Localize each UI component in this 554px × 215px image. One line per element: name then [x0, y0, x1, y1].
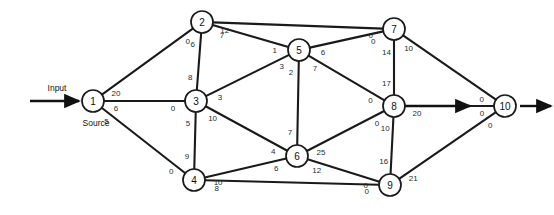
edge-label-1-3-far: 0 [171, 104, 176, 113]
edge-label-7-10-far: 0 [480, 95, 485, 104]
edge-label-2-3-near: 6 [191, 40, 196, 49]
edge-label-8-10-near: 20 [413, 109, 422, 118]
edge-label-2-5-far: 1 [273, 46, 278, 55]
edge-label-8-9-far: 16 [379, 157, 388, 166]
input-label: Input [48, 83, 68, 93]
node-label-5: 5 [296, 45, 302, 56]
edge-label-2-3-far: 8 [188, 73, 193, 82]
node-4: 4 [183, 169, 205, 191]
source-label: Source [83, 118, 110, 128]
edge-label-3-4-near: 5 [186, 119, 191, 128]
edge-5-6 [297, 61, 299, 145]
edge-label-3-5-near: 3 [218, 93, 223, 102]
network-flow-diagram: 12345678910 2006050120716833104591068060… [0, 0, 554, 215]
node-label-4: 4 [191, 175, 197, 186]
edge-9-10 [399, 112, 496, 179]
edge-8-9 [391, 117, 394, 174]
edge-3-5 [206, 55, 289, 96]
node-label-7: 7 [391, 24, 397, 35]
edge-label-5-6-near: 2 [289, 68, 294, 77]
edge-label-6-8-far: 0 [375, 119, 380, 128]
node-7: 7 [383, 18, 405, 40]
edge-label-6-9-near: 12 [312, 166, 321, 175]
node-2: 2 [191, 11, 213, 33]
edge-label-3-4-far: 9 [185, 152, 190, 161]
network-graph-canvas: 12345678910 2006050120716833104591068060… [0, 0, 554, 215]
edge-label-3-6-far: 4 [271, 147, 276, 156]
edge-label-1-2-near: 20 [112, 89, 121, 98]
edge-label-9-10-far: 0 [488, 121, 493, 130]
edge-label-7-8-near: 14 [382, 48, 391, 57]
edge-5-8 [308, 56, 384, 101]
node-5: 5 [288, 39, 310, 61]
edge-label-7-8-far: 17 [382, 79, 391, 88]
node-1: 1 [82, 90, 104, 112]
edge-label-8-9-near: 10 [381, 124, 390, 133]
edge-label-1-4-far: 0 [169, 167, 174, 176]
node-label-10: 10 [499, 101, 511, 112]
edge-label-3-6-near: 10 [208, 114, 217, 123]
edge-1-4 [102, 108, 186, 173]
edge-label-6-8-near: 25 [316, 148, 325, 157]
node-8: 8 [383, 95, 405, 117]
node-3: 3 [185, 90, 207, 112]
node-label-1: 1 [90, 96, 96, 107]
edge-label-4-6-far: 6 [274, 164, 279, 173]
edge-label-5-8-near: 7 [313, 64, 318, 73]
edge-label-7-10-near: 10 [404, 44, 413, 53]
node-label-9: 9 [387, 180, 393, 191]
edge-4-9 [205, 180, 379, 184]
edge-label-5-6-far: 7 [288, 128, 293, 137]
node-6: 6 [286, 145, 308, 167]
edge-label-2-5-near: 7 [220, 31, 225, 40]
node-label-6: 6 [294, 151, 300, 162]
node-10: 10 [494, 95, 516, 117]
edge-3-6 [206, 106, 288, 150]
edge-2-3 [197, 33, 201, 90]
edge-label-6-9-far: 0 [364, 181, 369, 190]
edge-7-10 [403, 35, 496, 99]
node-label-3: 3 [193, 96, 199, 107]
edge-label-1-3-near: 6 [114, 104, 119, 113]
node-label-2: 2 [199, 17, 205, 28]
edge-label-3-5-far: 3 [279, 62, 284, 71]
edge-label-8-10-far: 0 [480, 109, 485, 118]
edge-6-8 [307, 111, 384, 151]
edge-label-5-8-far: 0 [368, 96, 373, 105]
node-label-8: 8 [391, 101, 397, 112]
edge-3-4 [194, 112, 195, 169]
edge-label-5-7-far: 0 [371, 37, 376, 46]
edge-label-4-9-near: 8 [215, 184, 220, 193]
edge-label-5-7-near: 6 [321, 48, 326, 57]
node-9: 9 [379, 174, 401, 196]
edge-label-9-10-near: 21 [409, 174, 418, 183]
edge-2-7 [213, 22, 383, 28]
edge-1-2 [102, 28, 193, 94]
